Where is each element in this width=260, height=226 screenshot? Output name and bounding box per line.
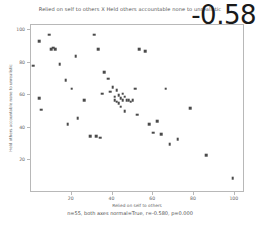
data-point xyxy=(119,105,122,108)
data-point xyxy=(231,177,234,180)
data-point xyxy=(117,94,120,97)
x-tick-mark xyxy=(152,192,153,195)
data-point xyxy=(107,78,110,81)
data-point xyxy=(66,123,69,126)
x-tick-mark xyxy=(193,192,194,195)
data-point xyxy=(121,92,124,95)
correlation-annotation: -0.58 xyxy=(191,2,256,28)
scatter-plot-figure: Relied on self to others X Held others a… xyxy=(0,0,260,226)
plot-axes-area xyxy=(30,24,244,192)
data-point xyxy=(95,135,98,138)
data-point xyxy=(75,55,78,58)
data-point xyxy=(38,40,41,43)
data-point xyxy=(113,95,116,98)
data-point xyxy=(101,92,104,95)
data-point xyxy=(54,48,57,51)
data-point xyxy=(176,138,179,141)
data-point xyxy=(134,87,137,90)
x-tick-mark xyxy=(234,192,235,195)
data-point xyxy=(111,86,114,89)
data-point xyxy=(97,48,100,51)
data-point xyxy=(164,87,167,90)
y-tick-label: 40 xyxy=(19,124,25,129)
y-tick-label: 100 xyxy=(16,26,25,31)
data-point xyxy=(77,117,80,120)
data-point xyxy=(38,97,41,100)
x-tick-mark xyxy=(71,192,72,195)
data-point xyxy=(70,87,73,90)
x-tick-label: 60 xyxy=(149,196,155,201)
data-point xyxy=(40,109,43,112)
y-tick-mark xyxy=(27,29,30,30)
data-point xyxy=(83,99,86,102)
x-tick-label: 40 xyxy=(109,196,115,201)
data-point xyxy=(205,154,208,157)
y-tick-label: 80 xyxy=(19,59,25,64)
data-point xyxy=(123,95,126,98)
data-point xyxy=(93,33,96,36)
data-point xyxy=(160,133,163,136)
data-point xyxy=(115,89,118,92)
data-point xyxy=(48,33,51,36)
data-point xyxy=(136,113,139,116)
x-tick-label: 80 xyxy=(190,196,196,201)
data-point xyxy=(132,99,135,102)
data-point xyxy=(109,91,112,94)
data-point xyxy=(123,110,126,113)
data-point xyxy=(99,136,102,139)
y-tick-label: 20 xyxy=(19,157,25,162)
data-point xyxy=(103,71,106,74)
y-axis-label: Held others accountable none to unrealis… xyxy=(8,64,13,151)
y-tick-mark xyxy=(27,62,30,63)
y-tick-mark xyxy=(27,94,30,95)
data-point xyxy=(168,143,171,146)
statistics-caption: n=55, both axes normal=True, r=-0.580, p… xyxy=(0,210,260,216)
data-point xyxy=(152,131,155,134)
x-tick-label: 20 xyxy=(68,196,74,201)
y-tick-label: 60 xyxy=(19,92,25,97)
data-point xyxy=(138,48,141,51)
x-axis-label: Relied on self to others xyxy=(30,203,244,208)
data-point xyxy=(148,123,151,126)
data-point xyxy=(117,102,120,105)
x-tick-mark xyxy=(112,192,113,195)
data-point xyxy=(144,50,147,53)
data-point xyxy=(32,64,35,67)
data-point xyxy=(89,135,92,138)
data-point xyxy=(64,79,67,82)
data-point xyxy=(189,107,192,110)
data-point xyxy=(156,120,159,123)
x-tick-label: 100 xyxy=(229,196,238,201)
y-tick-mark xyxy=(27,159,30,160)
data-point xyxy=(58,63,61,66)
data-point xyxy=(121,99,124,102)
y-tick-mark xyxy=(27,127,30,128)
